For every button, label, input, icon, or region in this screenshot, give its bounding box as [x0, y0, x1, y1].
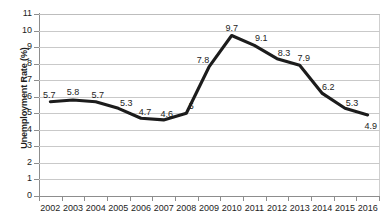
data-point-label: 5.3 — [339, 98, 365, 108]
data-point-label: 6.2 — [315, 82, 341, 92]
data-point-label: 7.9 — [291, 53, 317, 63]
data-point-label: 9.1 — [248, 33, 274, 43]
data-point-label: 4.6 — [154, 109, 180, 119]
data-point-label: 5 — [178, 101, 204, 111]
series-line-path — [50, 36, 367, 120]
data-point-label: 9.7 — [219, 23, 245, 33]
data-point-label: 7.8 — [190, 55, 216, 65]
data-point-label: 5.7 — [36, 90, 62, 100]
data-point-label: 4.9 — [358, 121, 384, 131]
line-chart: Unemployment Rate (%) 01234567891011 200… — [0, 0, 391, 221]
data-point-label: 5.8 — [60, 87, 86, 97]
data-point-label: 5.7 — [85, 90, 111, 100]
